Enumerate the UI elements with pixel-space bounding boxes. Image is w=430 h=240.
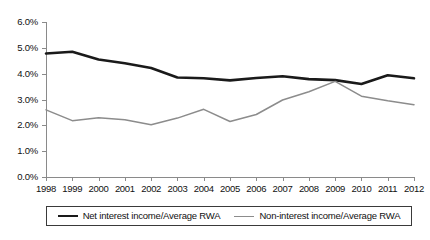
series-lines (0, 0, 430, 240)
chart-legend: Net interest income/Average RWA Non-inte… (46, 206, 412, 226)
series-line-non-interest-income (46, 81, 414, 124)
legend-swatch-net-interest-income (58, 215, 78, 217)
legend-item-net-interest-income: Net interest income/Average RWA (58, 211, 221, 221)
legend-label-net-interest-income: Net interest income/Average RWA (83, 211, 221, 221)
legend-label-non-interest-income: Non-interest income/Average RWA (259, 211, 400, 221)
legend-item-non-interest-income: Non-interest income/Average RWA (234, 211, 400, 221)
line-chart: 0.0%1.0%2.0%3.0%4.0%5.0%6.0% 19981999200… (0, 0, 430, 240)
legend-swatch-non-interest-income (234, 216, 254, 217)
series-line-net-interest-income (46, 52, 414, 84)
